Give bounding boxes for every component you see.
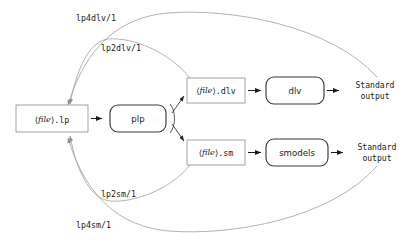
edge-lp4dlv-label: lp4dlv/1 bbox=[76, 13, 116, 23]
dlv-file-meta: file bbox=[199, 85, 213, 95]
node-smodels-solver: smodels bbox=[266, 139, 328, 166]
node-dlv-output: Standard output bbox=[356, 80, 395, 101]
smodels-output-line1: Standard bbox=[358, 142, 397, 152]
edge-lp2dlv-label: lp2dlv/1 bbox=[101, 43, 141, 53]
diagram-canvas: lp4dlv/1 lp2dlv/1 lp2sm/1 lp4sm/1 ⟨file⟩… bbox=[0, 0, 409, 242]
edge-lp2sm-label: lp2sm/1 bbox=[101, 189, 136, 199]
plp-fork-brace bbox=[170, 104, 175, 133]
sm-file-meta: file bbox=[201, 147, 215, 157]
node-dlv-file: ⟨file⟩.dlv bbox=[187, 78, 245, 103]
arrow-plp-to-dlv-file bbox=[172, 96, 184, 113]
smodels-output-line2: output bbox=[362, 153, 391, 163]
node-input-file: ⟨file⟩.lp bbox=[16, 105, 88, 132]
dlv-solver-label: dlv bbox=[289, 86, 302, 96]
pipeline-diagram: lp4dlv/1 lp2dlv/1 lp2sm/1 lp4sm/1 ⟨file⟩… bbox=[0, 0, 409, 242]
smodels-solver-label: smodels bbox=[279, 148, 315, 158]
dlv-file-suffix: .dlv bbox=[216, 86, 236, 96]
plp-label: plp bbox=[131, 114, 144, 124]
node-plp: plp bbox=[110, 105, 166, 132]
edge-lp2dlv: lp2dlv/1 bbox=[70, 39, 190, 104]
sm-file-label: ⟨file⟩.sm bbox=[199, 147, 234, 158]
input-file-label: ⟨file⟩.lp bbox=[35, 114, 70, 125]
arrow-plp-to-sm-file bbox=[172, 124, 184, 141]
edge-lp4sm-label: lp4sm/1 bbox=[76, 220, 111, 230]
input-file-meta: file bbox=[37, 114, 51, 124]
node-dlv-solver: dlv bbox=[266, 77, 324, 104]
node-sm-file: ⟨file⟩.sm bbox=[187, 140, 245, 165]
dlv-output-line2: output bbox=[360, 91, 389, 101]
edge-lp2sm: lp2sm/1 bbox=[70, 136, 190, 201]
sm-file-suffix: .sm bbox=[218, 148, 233, 158]
node-smodels-output: Standard output bbox=[358, 142, 397, 163]
dlv-file-label: ⟨file⟩.dlv bbox=[196, 85, 236, 96]
input-file-suffix: .lp bbox=[54, 114, 69, 124]
dlv-output-line1: Standard bbox=[356, 80, 395, 90]
